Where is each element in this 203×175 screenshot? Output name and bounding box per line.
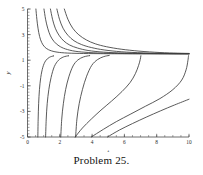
y-axis-title: y [4, 71, 11, 75]
figure-caption: Problem 25. [0, 154, 203, 166]
x-tick-label: 4 [91, 139, 94, 145]
y-tick-label: -3 [20, 108, 25, 114]
y-tick-label: 5 [22, 6, 25, 12]
y-tick-label: 1 [22, 57, 25, 63]
solution-curve [64, 9, 189, 53]
solution-curve [75, 56, 141, 137]
curves-group [36, 9, 189, 137]
solution-curve [91, 56, 188, 137]
solution-curve [76, 55, 110, 137]
y-tick-label: -5 [20, 134, 25, 140]
solution-curve [57, 9, 189, 54]
y-tick-label: -1 [20, 83, 25, 89]
axis-ticks-group [28, 9, 190, 137]
solution-curve [46, 56, 69, 137]
solution-curve [44, 9, 189, 54]
x-tick-label: 2 [58, 139, 61, 145]
x-tick-label: 10 [186, 139, 192, 145]
x-tick-label: 0 [26, 139, 29, 145]
solution-curve [50, 9, 189, 54]
x-tick-label: 8 [155, 139, 158, 145]
plot-area: 0246810531-1-3-5 ty [0, 0, 203, 152]
x-tick-label: 6 [123, 139, 126, 145]
axis-lines-group [28, 9, 190, 137]
figure-container: 0246810531-1-3-5 ty Problem 25. [0, 0, 203, 175]
y-tick-label: 3 [22, 32, 25, 38]
solution-curves-plot: 0246810531-1-3-5 ty [0, 0, 203, 152]
x-axis-title: t [107, 148, 109, 153]
